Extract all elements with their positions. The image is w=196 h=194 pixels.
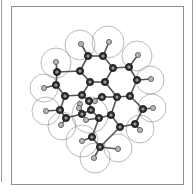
carbon-atom-highlight <box>89 108 92 111</box>
carbon-atom-highlight <box>100 95 103 98</box>
hydrogen-atom <box>76 105 81 110</box>
carbon-atom-highlight <box>128 94 131 97</box>
carbon-atom-highlight <box>58 108 61 111</box>
hydrogen-atom <box>150 105 155 110</box>
carbon-atom-highlight <box>87 99 90 102</box>
hydrogen-atom <box>91 155 96 160</box>
hydrogen-atom <box>53 59 58 64</box>
hydrogen-atom <box>92 98 97 103</box>
carbon-atom-highlight <box>133 122 136 125</box>
carbon-atom-highlight <box>90 135 93 138</box>
carbon-atom-highlight <box>111 66 114 69</box>
carbon-atom-highlight <box>109 113 112 116</box>
hydrogen-atom <box>148 76 153 81</box>
molecule-diagram <box>0 0 196 194</box>
bond <box>100 127 120 147</box>
carbon-atom-highlight <box>115 95 118 98</box>
hydrogen-atom <box>106 39 111 44</box>
carbon-atom-highlight <box>63 94 66 97</box>
hydrogen-atom <box>43 108 48 113</box>
hydrogen-atoms <box>41 39 155 160</box>
bonds <box>44 42 153 158</box>
carbon-atom-highlight <box>101 54 104 57</box>
carbon-atom-highlight <box>127 65 130 68</box>
hydrogen-atom <box>78 41 83 46</box>
hydrogen-atom <box>137 127 142 132</box>
carbon-atom-highlight <box>78 69 81 72</box>
carbon-atom-highlight <box>88 80 91 83</box>
carbon-atom-highlight <box>80 112 83 115</box>
carbon-atom-highlight <box>64 116 67 119</box>
carbon-atom-highlight <box>103 80 106 83</box>
hydrogen-atom <box>135 52 140 57</box>
hydrogen-atom <box>115 146 120 151</box>
carbon-atom-highlight <box>141 107 144 110</box>
carbon-atom-highlight <box>97 116 100 119</box>
carbon-atom-highlight <box>55 70 58 73</box>
carbon-atom-highlight <box>98 145 101 148</box>
carbon-atom-highlight <box>135 78 138 81</box>
hydrogen-atom <box>83 117 88 122</box>
carbon-atom-highlight <box>118 125 121 128</box>
carbon-atom-highlight <box>86 54 89 57</box>
carbon-atom-highlight <box>54 83 57 86</box>
hydrogen-atom <box>79 138 84 143</box>
hydrogen-atom <box>58 122 63 127</box>
carbon-atom-highlight <box>80 93 83 96</box>
hydrogen-atom <box>41 85 46 90</box>
